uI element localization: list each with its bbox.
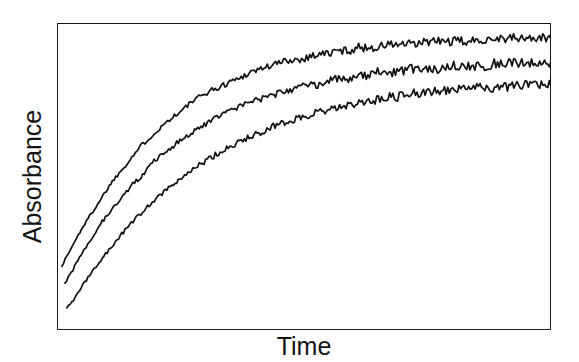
chart-figure: Absorbance Time xyxy=(0,0,579,362)
x-axis-label: Time xyxy=(57,332,551,361)
y-axis-label: Absorbance xyxy=(12,23,52,330)
curves-canvas xyxy=(57,23,551,330)
series-curve-3-lower xyxy=(67,81,551,308)
series-curve-2-middle xyxy=(65,59,551,283)
series-curve-1-upper xyxy=(62,34,551,267)
plot-area xyxy=(57,23,551,330)
